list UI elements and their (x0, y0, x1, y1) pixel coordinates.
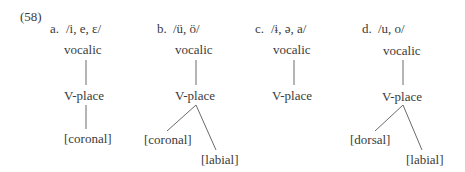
tree-a-segments: /i, e, ɛ/ (66, 22, 101, 35)
tree-a-place-node: V-place (64, 89, 104, 102)
tree-b-label: b. (157, 22, 167, 35)
tree-d-feature-dorsal: [dorsal] (350, 133, 390, 146)
tree-d-feature-labial: [labial] (406, 153, 444, 166)
tree-a-label: a. (50, 22, 59, 35)
branch-d-place-dorsal (375, 105, 403, 131)
tree-b-segments: /ü, ö/ (173, 22, 200, 35)
branch-b-place-labial (196, 105, 216, 150)
tree-d-segments: /u, o/ (378, 22, 405, 35)
tree-a-root-node: vocalic (64, 43, 102, 56)
branch-b-place-coronal (167, 105, 196, 131)
tree-c-segments: /ɨ, ə, a/ (271, 22, 306, 35)
example-number: (58) (20, 10, 42, 23)
tree-b-feature-coronal: [coronal] (144, 133, 192, 146)
tree-d-place-node: V-place (382, 90, 422, 103)
tree-d-label: d. (362, 22, 372, 35)
tree-c-place-node: V-place (272, 89, 312, 102)
tree-c-root-node: vocalic (273, 43, 311, 56)
tree-b-place-node: V-place (175, 89, 215, 102)
tree-a-feature-coronal: [coronal] (64, 132, 112, 145)
tree-c-label: c. (255, 22, 264, 35)
branch-d-place-labial (403, 105, 422, 150)
tree-d-root-node: vocalic (383, 44, 421, 57)
tree-b-root-node: vocalic (175, 43, 213, 56)
tree-b-feature-labial: [labial] (201, 153, 239, 166)
